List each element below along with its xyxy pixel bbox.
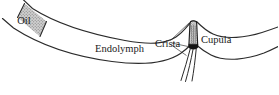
label-oil: Oil (17, 15, 31, 26)
label-crista: Crista (155, 38, 180, 49)
nerve-fiber-bundle (181, 49, 196, 82)
crista-base (189, 44, 198, 49)
label-cupula: Cupula (201, 34, 232, 45)
canal-tube-top-wall (22, 0, 279, 43)
label-endolymph: Endolymph (95, 43, 145, 54)
semicircular-canal-diagram: Oil Endolymph Crista Cupula (0, 0, 278, 95)
